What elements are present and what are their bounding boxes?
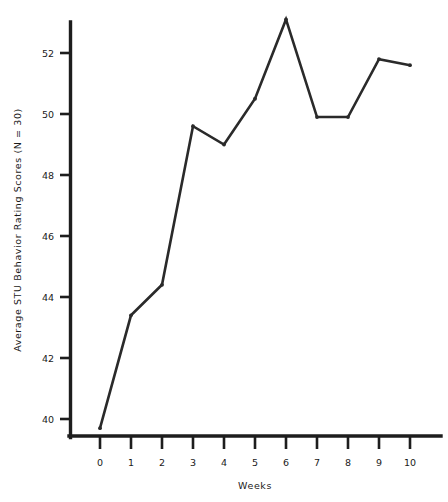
data-point (408, 63, 412, 67)
data-point (160, 283, 164, 287)
chart-figure: 52 50 48 46 44 42 40 0 1 2 3 4 (0, 0, 448, 502)
x-tick-label-3: 3 (190, 457, 196, 468)
y-axis-title: Average STU Behavior Rating Scores (N = … (12, 108, 23, 352)
data-point (315, 115, 319, 119)
x-tick-label-7: 7 (314, 457, 320, 468)
x-tick-label-4: 4 (221, 457, 227, 468)
data-point (98, 426, 102, 430)
data-point (222, 143, 226, 147)
data-point (253, 97, 257, 101)
data-point (377, 57, 381, 61)
x-axis-title: Weeks (238, 480, 272, 491)
x-tick-label-0: 0 (97, 457, 103, 468)
line-chart-svg: 52 50 48 46 44 42 40 0 1 2 3 4 (0, 0, 448, 502)
x-tick-label-10: 10 (404, 457, 416, 468)
x-tick-label-5: 5 (252, 457, 258, 468)
x-tick-label-2: 2 (159, 457, 165, 468)
x-tick-label-8: 8 (345, 457, 351, 468)
chart-background (0, 0, 448, 502)
y-tick-label-52: 52 (42, 48, 54, 59)
data-point (191, 124, 195, 128)
x-tick-label-6: 6 (283, 457, 289, 468)
x-tick-label-9: 9 (376, 457, 382, 468)
y-tick-label-46: 46 (42, 231, 54, 242)
y-tick-label-48: 48 (42, 170, 54, 181)
y-tick-label-40: 40 (42, 414, 54, 425)
y-tick-label-44: 44 (42, 292, 54, 303)
y-tick-label-50: 50 (42, 109, 54, 120)
data-point (284, 18, 288, 22)
x-tick-label-1: 1 (128, 457, 134, 468)
data-point (129, 313, 133, 317)
data-point (346, 115, 350, 119)
y-tick-label-42: 42 (42, 353, 54, 364)
